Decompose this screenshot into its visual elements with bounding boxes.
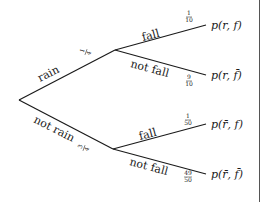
fraction-rain-not-fall: 9 10 [185, 73, 193, 87]
svg-text:10: 10 [185, 16, 193, 23]
svg-text:1: 1 [187, 9, 191, 16]
fraction-notrain-not-fall: 49 50 [184, 169, 192, 183]
outcome-notrain-fall: p(r̄, f) [211, 118, 243, 131]
probability-tree-diagram: rain not rain 1 4 3 4 fall not fall fall… [0, 0, 265, 202]
fraction-rain-fall: 1 10 [185, 9, 193, 23]
branch-label-rain-not-fall: not fall [129, 57, 171, 80]
outcome-rain-not-fall: p(r, f̄) [211, 69, 242, 82]
svg-text:49: 49 [184, 169, 192, 176]
edge-rain [19, 50, 115, 100]
tree-edges [19, 25, 206, 174]
svg-text:4: 4 [84, 50, 92, 56]
branch-label-rain-fall: fall [140, 27, 161, 44]
edge-rain-fall [115, 25, 206, 50]
fraction-not-rain: 3 4 [75, 142, 90, 152]
svg-text:50: 50 [184, 119, 192, 126]
svg-text:1: 1 [186, 112, 190, 119]
outcome-notrain-not-fall: p(r̄, f̄) [211, 168, 243, 181]
right-border [259, 0, 260, 202]
svg-text:50: 50 [184, 176, 192, 183]
svg-text:4: 4 [82, 146, 90, 152]
outcome-rain-fall: p(r, f) [211, 19, 242, 32]
fraction-notrain-fall: 1 50 [184, 112, 192, 126]
branch-label-rain: rain [35, 63, 61, 85]
branch-label-notrain-fall: fall [137, 126, 158, 143]
svg-text:10: 10 [185, 80, 193, 87]
svg-text:9: 9 [187, 73, 191, 80]
edge-notrain-fall [113, 124, 206, 149]
fraction-rain: 1 4 [77, 46, 92, 56]
